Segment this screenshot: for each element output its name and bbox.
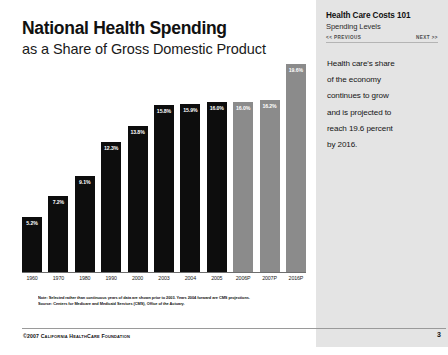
bar: 15.9% (180, 104, 200, 273)
x-axis-tick-label: 2016P (286, 275, 306, 281)
bar-value-label: 9.1% (79, 179, 90, 185)
side-panel: Health Care Costs 101 Spending Levels <<… (316, 0, 448, 330)
source-line: Source: Centers for Medicare and Medicai… (38, 301, 288, 307)
bar-column: 15.9% (180, 60, 200, 272)
bar-column: 16.0% (233, 60, 253, 272)
chart-footnotes: Note: Selected rather than continuous ye… (38, 295, 288, 307)
x-axis-tick-label: 2000 (128, 275, 148, 281)
bar-value-label: 5.2% (26, 220, 37, 226)
bar-column: 16.2% (260, 60, 280, 272)
panel-body-line: by 2016. (327, 137, 443, 153)
panel-body-line: Health care's share (327, 56, 443, 72)
bar-value-label: 15.8% (157, 108, 171, 114)
bar-value-label: 12.3% (104, 145, 118, 151)
bar: 16.0% (207, 102, 227, 272)
x-axis-tick-label: 2004 (180, 275, 200, 281)
x-axis-tick-label: 1970 (48, 275, 68, 281)
bar-column: 7.2% (48, 60, 68, 272)
bar: 19.6% (286, 64, 306, 272)
bar-series: 5.2%7.2%9.1%12.3%13.8%15.8%15.9%16.0%16.… (22, 60, 306, 272)
bar: 13.8% (128, 126, 148, 272)
x-axis-line (22, 272, 306, 273)
bar: 16.0% (233, 102, 253, 272)
bar-column: 9.1% (75, 60, 95, 272)
bar: 5.2% (22, 217, 42, 272)
previous-link[interactable]: << PREVIOUS (326, 35, 361, 40)
x-axis-tick-label: 2003 (154, 275, 174, 281)
bar-column: 5.2% (22, 60, 42, 272)
bar-column: 13.8% (128, 60, 148, 272)
x-axis-tick-label: 1990 (101, 275, 121, 281)
panel-body-line: and is projected to (327, 105, 443, 121)
x-axis-tick-label: 2005 (207, 275, 227, 281)
x-axis-tick-label: 1980 (75, 275, 95, 281)
x-axis-tick-label: 2007P (260, 275, 280, 281)
panel-body-text: Health care's shareof the economycontinu… (327, 56, 443, 153)
bar-column: 19.6% (286, 60, 306, 272)
bar-column: 16.0% (207, 60, 227, 272)
bar-value-label: 16.0% (236, 105, 250, 111)
slide: National Health Spending as a Share of G… (0, 0, 448, 355)
bar: 15.8% (154, 105, 174, 273)
panel-body-line: of the economy (327, 72, 443, 88)
title-main: National Health Spending (22, 18, 302, 38)
panel-subtitle: Spending Levels (326, 22, 438, 31)
footer-divider (22, 328, 446, 329)
bar-value-label: 19.6% (289, 67, 303, 73)
bar: 16.2% (260, 100, 280, 272)
bar: 9.1% (75, 176, 95, 273)
title-subtitle: as a Share of Gross Domestic Product (22, 41, 302, 58)
bar-chart: 5.2%7.2%9.1%12.3%13.8%15.8%15.9%16.0%16.… (22, 60, 306, 272)
panel-navigation: << PREVIOUS NEXT >> (326, 35, 438, 43)
bar: 7.2% (48, 196, 68, 272)
copyright-text: ©2007 California HealthCare Foundation (23, 333, 130, 339)
panel-title: Health Care Costs 101 (326, 11, 438, 21)
next-link[interactable]: NEXT >> (416, 35, 438, 40)
bar-value-label: 16.2% (262, 103, 276, 109)
page-title: National Health Spending as a Share of G… (22, 18, 302, 59)
panel-footer-block (316, 330, 448, 347)
x-axis-tick-labels: 196019701980199020002003200420052006P200… (22, 275, 306, 281)
bar-value-label: 7.2% (53, 199, 64, 205)
panel-body-line: reach 19.6 percent (327, 121, 443, 137)
page-number: 3 (437, 331, 441, 338)
panel-header: Health Care Costs 101 Spending Levels <<… (326, 11, 438, 43)
bar-value-label: 13.8% (130, 129, 144, 135)
bar: 12.3% (101, 142, 121, 272)
x-axis-tick-label: 1960 (22, 275, 42, 281)
bar-value-label: 16.0% (210, 105, 224, 111)
bar-value-label: 15.9% (183, 107, 197, 113)
bar-column: 15.8% (154, 60, 174, 272)
x-axis-tick-label: 2006P (233, 275, 253, 281)
bar-column: 12.3% (101, 60, 121, 272)
panel-body-line: continues to grow (327, 88, 443, 104)
